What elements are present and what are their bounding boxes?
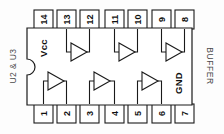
pin-box-12[interactable]: 12 [80, 10, 99, 29]
ic-diagram-canvas: 14 13 12 11 10 9 [0, 0, 224, 134]
pin-box-4[interactable]: 4 [105, 104, 124, 123]
pin-box-5[interactable]: 5 [128, 104, 147, 123]
pin-box-11[interactable]: 11 [105, 10, 124, 29]
pin-label-2: 2 [62, 111, 72, 116]
pin-box-14[interactable]: 14 [34, 10, 53, 29]
pin-label-8: 8 [180, 17, 190, 22]
pin-label-9: 9 [157, 17, 167, 22]
function-label-buffer: BUFFER [205, 47, 215, 85]
pin-box-1[interactable]: 1 [34, 104, 53, 123]
pin-label-3: 3 [85, 111, 95, 116]
pin-label-12: 12 [85, 14, 95, 24]
pin-label-13: 13 [62, 14, 72, 24]
ic-pinout-diagram: 14 13 12 11 10 9 [0, 0, 224, 134]
bottom-pin-row: 1 2 3 4 5 6 [34, 104, 194, 123]
gnd-label: GND [173, 72, 184, 94]
pin-box-10[interactable]: 10 [128, 10, 147, 29]
pin-label-10: 10 [133, 14, 143, 24]
pin-box-7[interactable]: 7 [175, 104, 194, 123]
ic-body-outline [27, 28, 192, 105]
pin-label-14: 14 [39, 14, 49, 24]
top-pin-row: 14 13 12 11 10 9 [34, 10, 194, 29]
pin-box-6[interactable]: 6 [152, 104, 171, 123]
reference-designator-label: U2 & U3 [8, 49, 18, 84]
pin-label-4: 4 [110, 111, 120, 116]
pin-box-8[interactable]: 8 [175, 10, 194, 29]
pin-box-2[interactable]: 2 [57, 104, 76, 123]
vcc-label: Vcc [38, 39, 49, 57]
pin-box-9[interactable]: 9 [152, 10, 171, 29]
pin-label-5: 5 [133, 111, 143, 116]
pin-box-13[interactable]: 13 [57, 10, 76, 29]
pin-box-3[interactable]: 3 [80, 104, 99, 123]
pin-label-1: 1 [39, 111, 49, 116]
pin-label-7: 7 [180, 111, 190, 116]
pin-label-11: 11 [110, 15, 120, 25]
pin-label-6: 6 [157, 111, 167, 116]
